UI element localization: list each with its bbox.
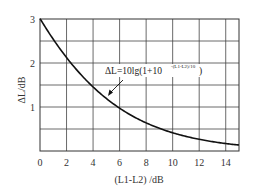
y-tick-label: 3 [30,14,35,25]
x-tick-label: 0 [38,157,43,168]
chart: 02468101214 123 ΔL/dB (L1-L2) /dB ΔL=10l… [0,0,257,191]
annotation-arrow [111,80,123,92]
x-tick-label: 6 [117,157,122,168]
x-tick-label: 12 [194,157,204,168]
svg-text:-(L1-L2)/10: -(L1-L2)/10 [171,64,196,69]
x-tick-labels: 02468101214 [38,157,231,168]
svg-text:): ) [199,66,202,77]
x-tick-label: 8 [144,157,149,168]
data-curve [40,19,239,146]
y-tick-labels: 123 [30,14,35,113]
svg-text:ΔL=10lg(1+10: ΔL=10lg(1+10 [105,66,162,77]
y-axis-label: ΔL/dB [16,76,27,103]
y-tick-label: 2 [30,58,35,69]
grid [40,19,239,151]
x-tick-label: 14 [221,157,231,168]
x-tick-label: 4 [91,157,96,168]
y-tick-label: 1 [30,102,35,113]
x-axis-label: (L1-L2) /dB [114,174,163,186]
x-tick-label: 10 [168,157,178,168]
x-tick-label: 2 [64,157,69,168]
